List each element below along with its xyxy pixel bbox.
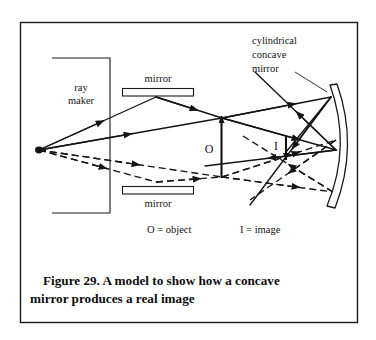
legend-image: I = image [240, 224, 281, 235]
mirror-bottom-label: mirror [145, 198, 172, 209]
ray-maker-label-line1: ray [74, 82, 88, 93]
mirror-top-label: mirror [145, 73, 172, 84]
flat-mirror-top [123, 89, 194, 97]
legend-object: O = object [147, 224, 191, 235]
flat-mirror-bottom [123, 187, 194, 195]
ray-maker-label-line2: maker [68, 95, 95, 106]
figure-container: ray maker [0, 0, 376, 340]
concave-mirror-label-line3: mirror [252, 63, 279, 74]
figure-caption-line1: Figure 29. A model to show how a concave [43, 273, 280, 288]
concave-mirror-label-line1: cylindrical [252, 35, 297, 46]
ray-diagram-svg: ray maker [0, 0, 376, 340]
concave-mirror-label-line2: concave [252, 49, 287, 60]
image-symbol-label: I [274, 139, 278, 153]
figure-caption-line2: mirror produces a real image [30, 291, 195, 306]
object-symbol-label: O [205, 142, 214, 156]
